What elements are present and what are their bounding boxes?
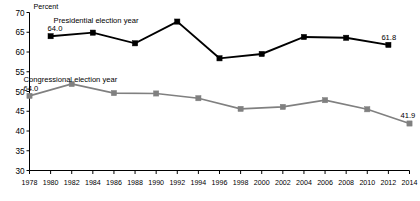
y-tick-label: 60: [15, 48, 25, 57]
x-tick-label: 2014: [402, 179, 418, 187]
x-tick-label: 1986: [106, 179, 122, 187]
congressional-data-point: [365, 107, 370, 112]
chart-container: 303540455055606570Percent197819801982198…: [0, 0, 420, 201]
presidential-data-point: [301, 34, 306, 39]
y-tick-label: 70: [15, 9, 25, 18]
x-tick-label: 1996: [212, 179, 228, 187]
presidential-data-point: [48, 34, 53, 39]
x-tick-label: 1978: [22, 179, 38, 187]
x-tick-label: 2008: [338, 179, 354, 187]
congressional-end-value-label: 41.9: [401, 111, 416, 120]
x-tick-label: 1992: [169, 179, 185, 187]
congressional-data-point: [280, 104, 285, 109]
congressional-start-value-label: 64.0: [24, 84, 39, 93]
x-tick-label: 1990: [148, 179, 164, 187]
congressional-data-point: [154, 91, 159, 96]
presidential-data-point: [132, 41, 137, 46]
line-chart: 303540455055606570Percent197819801982198…: [0, 0, 420, 201]
y-tick-label: 30: [15, 167, 25, 176]
presidential-data-point: [386, 42, 391, 47]
y-tick-label: 65: [15, 28, 25, 37]
congressional-line: [30, 84, 410, 124]
y-tick-label: 35: [15, 147, 25, 156]
x-tick-label: 1994: [190, 179, 206, 187]
x-tick-label: 1984: [85, 179, 101, 187]
x-tick-label: 1998: [233, 179, 249, 187]
congressional-data-point: [111, 90, 116, 95]
x-tick-label: 2010: [359, 179, 375, 187]
x-tick-label: 1980: [43, 179, 59, 187]
presidential-data-point: [344, 35, 349, 40]
presidential-start-value-label: 64.0: [48, 24, 63, 33]
presidential-series-label: Presidential election year: [54, 16, 139, 25]
congressional-data-point: [407, 121, 412, 126]
x-tick-label: 2000: [254, 179, 270, 187]
x-tick-label: 2012: [380, 179, 396, 187]
presidential-data-point: [259, 51, 264, 56]
presidential-line: [51, 22, 389, 59]
congressional-data-point: [238, 106, 243, 111]
x-tick-label: 2006: [317, 179, 333, 187]
presidential-end-value-label: 61.8: [381, 33, 396, 42]
y-tick-label: 45: [15, 107, 25, 116]
presidential-data-point: [90, 30, 95, 35]
y-tick-label: 40: [15, 127, 25, 136]
x-tick-label: 1982: [64, 179, 80, 187]
congressional-data-point: [196, 96, 201, 101]
x-tick-label: 1988: [127, 179, 143, 187]
congressional-data-point: [27, 93, 32, 98]
x-tick-label: 2004: [296, 179, 312, 187]
y-axis-title-label: Percent: [34, 2, 59, 11]
presidential-data-point: [217, 56, 222, 61]
x-tick-label: 2002: [275, 179, 291, 187]
presidential-data-point: [175, 19, 180, 24]
congressional-data-point: [322, 98, 327, 103]
